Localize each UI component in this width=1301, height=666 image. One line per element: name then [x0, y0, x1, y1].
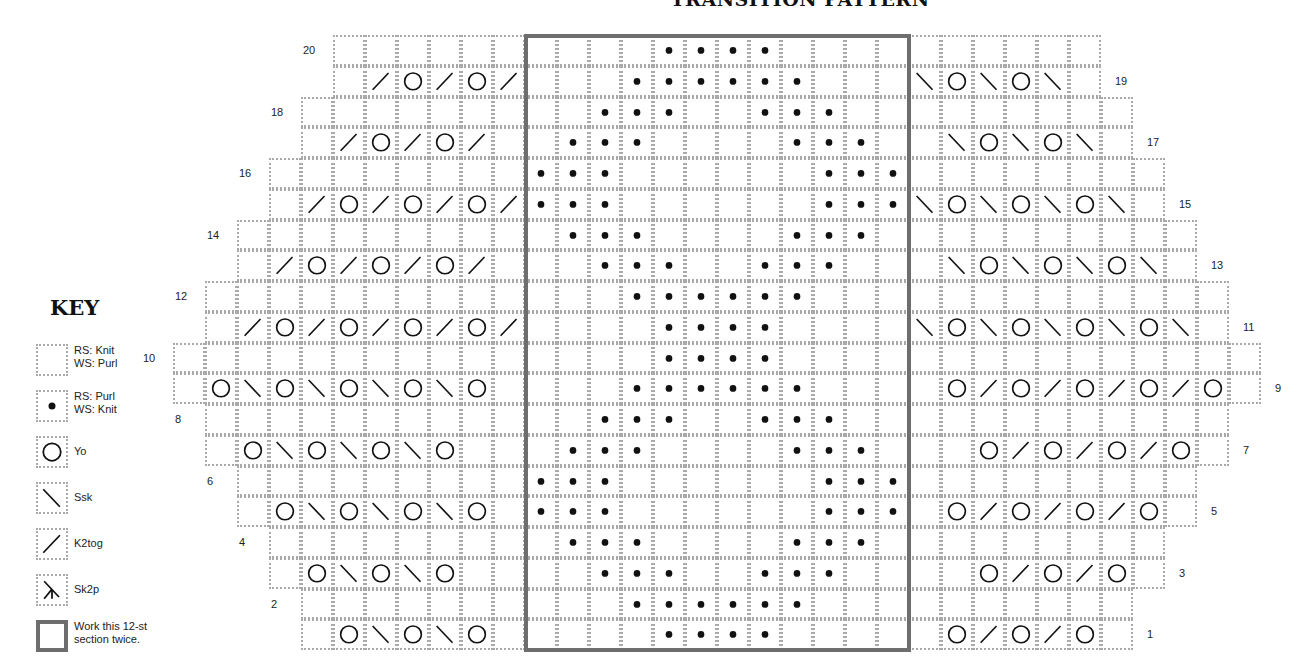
- chart-cell: [1133, 527, 1165, 558]
- chart-cell: [973, 189, 1005, 220]
- chart-cell: [525, 281, 557, 312]
- chart-cell: [749, 404, 781, 435]
- chart-cell: [941, 97, 973, 128]
- chart-cell: [461, 35, 493, 66]
- chart-cell: [781, 220, 813, 251]
- chart-cell: [461, 558, 493, 589]
- chart-cell: [461, 189, 493, 220]
- chart-cell: [1101, 250, 1133, 281]
- chart-cell: [333, 404, 365, 435]
- chart-cell: [845, 189, 877, 220]
- chart-cell: [1069, 373, 1101, 404]
- chart-cell: [1165, 343, 1197, 374]
- chart-cell: [717, 558, 749, 589]
- chart-cell: [397, 66, 429, 97]
- chart-cell: [461, 619, 493, 650]
- chart-cell: [685, 589, 717, 620]
- blank-cell-icon: [36, 344, 68, 376]
- chart-cell: [1069, 558, 1101, 589]
- chart-cell: [1133, 250, 1165, 281]
- purl-dot-icon: [36, 390, 68, 422]
- chart-cell: [941, 619, 973, 650]
- k2tog-icon: [36, 528, 68, 560]
- chart-cell: [1037, 35, 1069, 66]
- chart-cell: [1037, 558, 1069, 589]
- chart-cell: [781, 250, 813, 281]
- chart-cell: [973, 343, 1005, 374]
- chart-cell: [1069, 158, 1101, 189]
- chart-cell: [589, 250, 621, 281]
- chart-cell: [621, 404, 653, 435]
- chart-cell: [365, 558, 397, 589]
- chart-cell: [269, 527, 301, 558]
- chart-cell: [653, 466, 685, 497]
- chart-cell: [1005, 250, 1037, 281]
- chart-cell: [941, 66, 973, 97]
- chart-cell: [397, 527, 429, 558]
- chart-cell: [621, 281, 653, 312]
- chart-cell: [1197, 373, 1229, 404]
- chart-cell: [557, 189, 589, 220]
- chart-cell: [685, 527, 717, 558]
- chart-cell: [525, 496, 557, 527]
- chart-cell: [941, 496, 973, 527]
- chart-cell: [845, 220, 877, 251]
- chart-cell: [1005, 496, 1037, 527]
- chart-cell: [525, 589, 557, 620]
- chart-cell: [1101, 527, 1133, 558]
- chart-cell: [1165, 404, 1197, 435]
- chart-cell: [1197, 343, 1229, 374]
- chart-cell: [525, 435, 557, 466]
- chart-cell: [845, 35, 877, 66]
- row-number: 17: [1147, 136, 1159, 148]
- chart-cell: [653, 343, 685, 374]
- chart-cell: [813, 527, 845, 558]
- chart-cell: [877, 435, 909, 466]
- chart-cell: [781, 435, 813, 466]
- chart-cell: [525, 312, 557, 343]
- chart-cell: [845, 158, 877, 189]
- chart-cell: [493, 343, 525, 374]
- chart-cell: [1037, 435, 1069, 466]
- chart-cell: [397, 35, 429, 66]
- chart-cell: [653, 404, 685, 435]
- chart-cell: [1037, 250, 1069, 281]
- chart-cell: [877, 35, 909, 66]
- chart-cell: [397, 220, 429, 251]
- chart-cell: [653, 312, 685, 343]
- chart-cell: [397, 558, 429, 589]
- chart-cell: [237, 496, 269, 527]
- chart-cell: [1197, 435, 1229, 466]
- chart-cell: [941, 189, 973, 220]
- chart-cell: [877, 589, 909, 620]
- chart-cell: [1037, 127, 1069, 158]
- chart-cell: [589, 496, 621, 527]
- chart-cell: [397, 619, 429, 650]
- chart-cell: [589, 435, 621, 466]
- chart-cell: [813, 127, 845, 158]
- row-number: 18: [271, 106, 283, 118]
- chart-cell: [269, 343, 301, 374]
- chart-cell: [845, 281, 877, 312]
- chart-cell: [813, 35, 845, 66]
- chart-cell: [589, 312, 621, 343]
- chart-cell: [685, 158, 717, 189]
- key-item-sk2p: Sk2p: [36, 574, 176, 606]
- chart-cell: [1005, 373, 1037, 404]
- chart-cell: [877, 496, 909, 527]
- chart-cell: [877, 619, 909, 650]
- chart-cell: [1069, 250, 1101, 281]
- chart-cell: [717, 404, 749, 435]
- chart-cell: [909, 527, 941, 558]
- chart-cell: [429, 589, 461, 620]
- chart-cell: [333, 281, 365, 312]
- chart-cell: [685, 466, 717, 497]
- chart-cell: [781, 127, 813, 158]
- chart-cell: [685, 343, 717, 374]
- chart-cell: [1101, 496, 1133, 527]
- chart-cell: [365, 343, 397, 374]
- chart-cell: [1101, 373, 1133, 404]
- key-label: Work this 12-st section twice.: [74, 620, 147, 646]
- chart-cell: [525, 373, 557, 404]
- chart-cell: [749, 127, 781, 158]
